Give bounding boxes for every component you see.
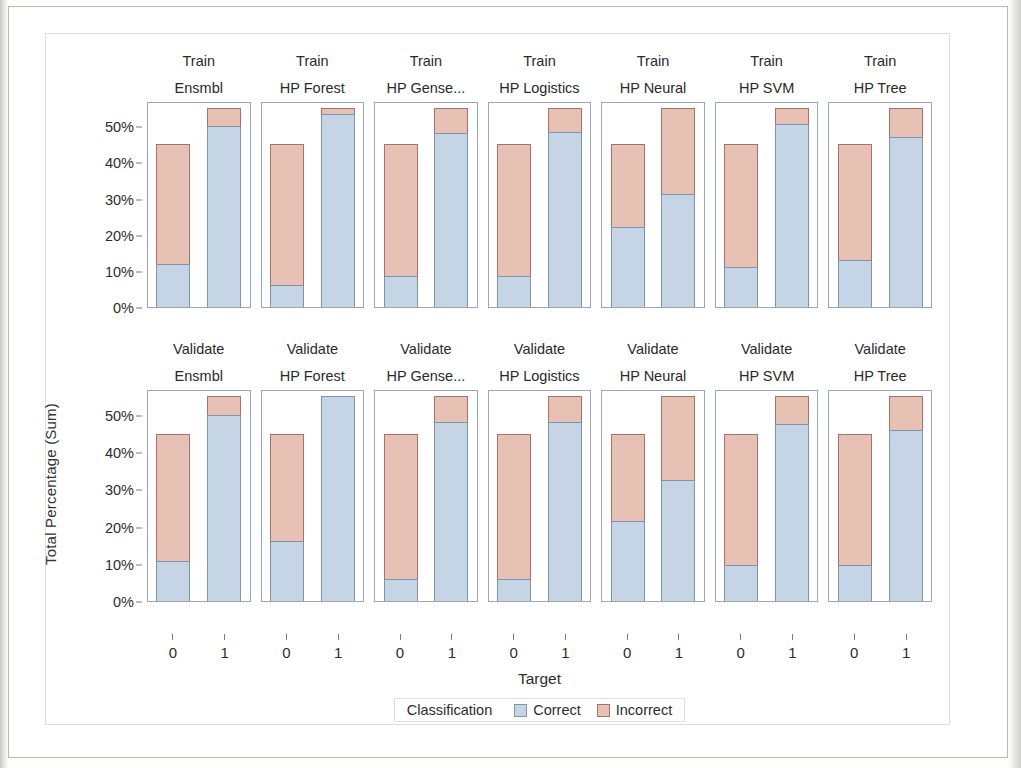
bar-segment-incorrect[interactable] — [384, 144, 418, 276]
bar-column[interactable] — [548, 391, 582, 601]
legend-item-correct[interactable]: Correct — [514, 702, 581, 718]
bar-stack[interactable] — [661, 108, 695, 307]
bar-column[interactable] — [270, 391, 304, 601]
bar-segment-incorrect[interactable] — [775, 108, 809, 124]
bar-column[interactable] — [889, 103, 923, 307]
bar-column[interactable] — [270, 103, 304, 307]
bar-stack[interactable] — [548, 396, 582, 601]
bar-stack[interactable] — [889, 108, 923, 307]
bar-segment-correct[interactable] — [270, 541, 304, 601]
bar-segment-incorrect[interactable] — [156, 434, 190, 561]
bar-segment-incorrect[interactable] — [548, 396, 582, 422]
bar-column[interactable] — [838, 103, 872, 307]
bar-segment-incorrect[interactable] — [661, 108, 695, 194]
bar-stack[interactable] — [207, 108, 241, 307]
bar-stack[interactable] — [156, 144, 190, 307]
bar-stack[interactable] — [270, 434, 304, 601]
bar-segment-correct[interactable] — [611, 227, 645, 307]
bar-column[interactable] — [434, 103, 468, 307]
bar-segment-incorrect[interactable] — [611, 144, 645, 227]
bar-column[interactable] — [384, 391, 418, 601]
bar-column[interactable] — [497, 103, 531, 307]
bar-segment-incorrect[interactable] — [156, 144, 190, 264]
bar-stack[interactable] — [434, 108, 468, 307]
bar-stack[interactable] — [775, 108, 809, 307]
bar-column[interactable] — [207, 391, 241, 601]
bar-column[interactable] — [775, 103, 809, 307]
bar-segment-incorrect[interactable] — [889, 108, 923, 137]
bar-segment-correct[interactable] — [321, 114, 355, 307]
bar-segment-correct[interactable] — [775, 124, 809, 307]
bar-segment-correct[interactable] — [775, 424, 809, 601]
bar-column[interactable] — [724, 391, 758, 601]
bar-column[interactable] — [384, 103, 418, 307]
bar-stack[interactable] — [207, 396, 241, 601]
bar-segment-incorrect[interactable] — [497, 434, 531, 579]
bar-segment-incorrect[interactable] — [207, 108, 241, 126]
bar-stack[interactable] — [321, 396, 355, 601]
bar-segment-correct[interactable] — [889, 137, 923, 307]
bar-stack[interactable] — [384, 434, 418, 601]
bar-stack[interactable] — [724, 144, 758, 307]
bar-segment-correct[interactable] — [661, 480, 695, 601]
bar-column[interactable] — [775, 391, 809, 601]
bar-stack[interactable] — [497, 434, 531, 601]
bar-segment-correct[interactable] — [497, 276, 531, 307]
bar-segment-incorrect[interactable] — [434, 396, 468, 422]
bar-segment-incorrect[interactable] — [661, 396, 695, 480]
bar-segment-incorrect[interactable] — [724, 144, 758, 266]
bar-stack[interactable] — [384, 144, 418, 307]
bar-segment-correct[interactable] — [838, 260, 872, 307]
bar-segment-correct[interactable] — [207, 415, 241, 601]
bar-column[interactable] — [611, 391, 645, 601]
bar-stack[interactable] — [724, 434, 758, 601]
bar-segment-incorrect[interactable] — [434, 108, 468, 133]
bar-segment-correct[interactable] — [207, 126, 241, 307]
bar-segment-correct[interactable] — [548, 132, 582, 307]
bar-stack[interactable] — [497, 144, 531, 307]
bar-segment-incorrect[interactable] — [384, 434, 418, 579]
bar-segment-correct[interactable] — [497, 579, 531, 601]
bar-segment-correct[interactable] — [889, 430, 923, 601]
bar-segment-incorrect[interactable] — [838, 434, 872, 565]
bar-segment-incorrect[interactable] — [611, 434, 645, 521]
bar-segment-incorrect[interactable] — [270, 434, 304, 542]
bar-segment-correct[interactable] — [384, 579, 418, 601]
bar-column[interactable] — [434, 391, 468, 601]
bar-segment-correct[interactable] — [384, 276, 418, 307]
bar-segment-correct[interactable] — [661, 194, 695, 307]
bar-column[interactable] — [661, 391, 695, 601]
bar-segment-correct[interactable] — [548, 422, 582, 601]
bar-column[interactable] — [321, 391, 355, 601]
bar-segment-correct[interactable] — [321, 396, 355, 601]
bar-column[interactable] — [548, 103, 582, 307]
bar-column[interactable] — [661, 103, 695, 307]
bar-segment-incorrect[interactable] — [548, 108, 582, 132]
bar-column[interactable] — [724, 103, 758, 307]
bar-segment-correct[interactable] — [611, 521, 645, 601]
bar-column[interactable] — [838, 391, 872, 601]
bar-segment-correct[interactable] — [434, 422, 468, 601]
legend-item-incorrect[interactable]: Incorrect — [597, 702, 672, 718]
bar-segment-incorrect[interactable] — [775, 396, 809, 424]
bar-column[interactable] — [156, 103, 190, 307]
bar-column[interactable] — [156, 391, 190, 601]
bar-segment-incorrect[interactable] — [207, 396, 241, 415]
bar-column[interactable] — [207, 103, 241, 307]
bar-stack[interactable] — [611, 144, 645, 307]
bar-segment-correct[interactable] — [156, 561, 190, 601]
bar-stack[interactable] — [321, 108, 355, 307]
bar-stack[interactable] — [156, 434, 190, 601]
bar-stack[interactable] — [661, 396, 695, 601]
bar-segment-incorrect[interactable] — [889, 396, 923, 429]
bar-segment-correct[interactable] — [724, 267, 758, 307]
bar-segment-incorrect[interactable] — [270, 144, 304, 284]
bar-segment-incorrect[interactable] — [497, 144, 531, 276]
bar-stack[interactable] — [434, 396, 468, 601]
bar-segment-correct[interactable] — [724, 565, 758, 601]
bar-stack[interactable] — [548, 108, 582, 307]
bar-column[interactable] — [611, 103, 645, 307]
bar-segment-incorrect[interactable] — [838, 144, 872, 259]
bar-segment-correct[interactable] — [838, 565, 872, 601]
bar-stack[interactable] — [611, 434, 645, 601]
